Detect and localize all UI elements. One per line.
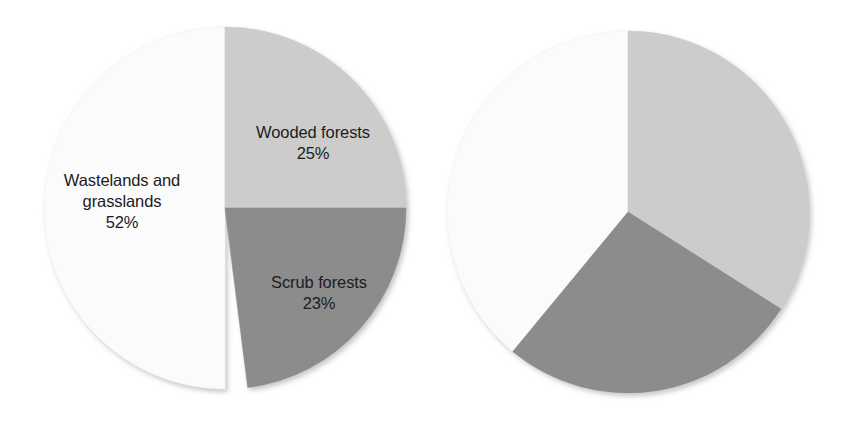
left-label-scrub-forests: Scrub forests 23% [239,272,399,314]
left-label-wastelands-grasslands-line1: Wastelands and [22,170,222,191]
left-label-wooded-forests-value: 25% [228,143,398,164]
left-pie-chart-panel: Wooded forests 25% Scrub forests 23% Was… [0,0,422,426]
left-label-scrub-forests-value: 23% [239,293,399,314]
left-label-wooded-forests-name: Wooded forests [228,122,398,143]
left-label-wastelands-grasslands: Wastelands and grasslands 52% [22,170,222,233]
left-label-wastelands-grasslands-line2: grasslands [22,191,222,212]
pie-chart-figure: Wooded forests 25% Scrub forests 23% Was… [0,0,844,426]
left-label-scrub-forests-name: Scrub forests [239,272,399,293]
right-pie-chart-panel: Wooded forests 34% Scrub forests 27% Was… [422,0,844,426]
left-label-wastelands-grasslands-value: 52% [22,212,222,233]
left-label-wooded-forests: Wooded forests 25% [228,122,398,164]
